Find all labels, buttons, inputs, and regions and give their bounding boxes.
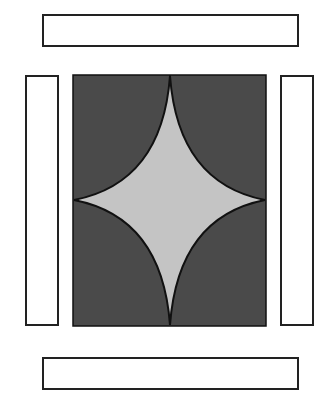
star-panel xyxy=(0,0,327,420)
